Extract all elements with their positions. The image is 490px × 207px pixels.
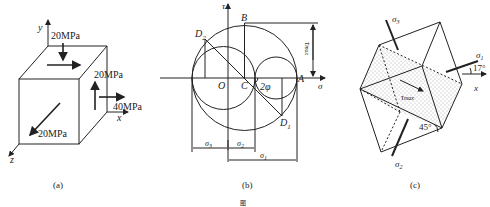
angle-2phi-label: 2φ: [260, 81, 271, 92]
figure-canvas: y z x 20MPa 20MPa 40MPa 20MPa (a): [0, 0, 490, 207]
angle-arc: [256, 78, 258, 82]
point-d2-label: D2: [194, 28, 206, 42]
z-axis-label: z: [9, 154, 14, 165]
caption-a: (a): [53, 180, 63, 190]
angle-17-arc: [470, 68, 471, 74]
sigma-axis-label: σ: [318, 81, 323, 91]
point-c-label: C: [241, 80, 248, 91]
right-shear-label: 20MPa: [94, 69, 123, 80]
x-axis-label-c: x: [473, 83, 478, 93]
tau-max-label-c: τmax: [401, 93, 414, 102]
dim-sigma3-label: σ3: [205, 139, 212, 149]
sigma1-label: σ1: [476, 50, 483, 61]
cube-right-face: [79, 46, 107, 144]
point-a-label: A: [297, 73, 305, 84]
dim-sigma1-label: σ1: [260, 151, 267, 161]
caption-b: (b): [242, 180, 253, 190]
inner-edge-2: [422, 22, 440, 66]
angle-17-label: 17°: [473, 63, 486, 73]
tau-axis-label: τ: [222, 1, 226, 11]
caption-c: (c): [410, 180, 420, 190]
max-shear-plane: [360, 45, 462, 128]
angle-45-label: 45°: [419, 122, 432, 132]
x-axis-label: x: [116, 112, 122, 123]
figure-footer-mark: 图: [240, 200, 246, 207]
tau-max-label: τmax: [303, 42, 313, 56]
point-b-label: B: [241, 12, 247, 23]
right-normal-label: 40MPa: [113, 101, 142, 112]
front-stress-label: 20MPa: [38, 128, 67, 139]
point-d1-label: D1: [279, 117, 291, 131]
sigma2-label: σ2: [395, 159, 402, 170]
figure-c-principal-element: [360, 20, 486, 156]
top-stress-label: 20MPa: [51, 30, 80, 41]
point-o-label: O: [218, 80, 225, 91]
sigma3-label: σ3: [392, 14, 399, 25]
y-axis-label: y: [37, 22, 43, 33]
dim-sigma2-label: σ2: [237, 139, 244, 149]
